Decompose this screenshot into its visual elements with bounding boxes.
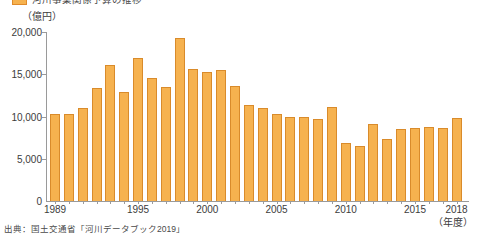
bar [50, 114, 60, 201]
bar [92, 88, 102, 201]
bar [147, 78, 157, 201]
bar [216, 70, 226, 201]
x-axis-tick-labels: 1989199520002005201020152018 [46, 204, 477, 218]
bar-series [47, 32, 469, 201]
y-axis-tick [42, 32, 47, 33]
bar [410, 128, 420, 202]
y-axis-tick-label: 10,000 [11, 111, 42, 122]
bar [452, 118, 462, 201]
bar [355, 146, 365, 201]
bar [327, 107, 337, 201]
bar [272, 114, 282, 201]
bar [64, 114, 74, 201]
bar [299, 117, 309, 201]
bar [105, 65, 115, 201]
bar [424, 127, 434, 201]
y-axis-tick-label: 5,000 [17, 153, 42, 164]
y-axis-tick-label: 0 [36, 196, 42, 207]
chart-root: 河川事業関係予算の推移 （億円） 05,00010,00015,00020,00… [0, 0, 477, 237]
y-axis-tick [42, 159, 47, 160]
bar [119, 92, 129, 201]
bar [175, 38, 185, 201]
bar [133, 58, 143, 201]
x-axis-tick-label: 2005 [265, 204, 287, 215]
bar [396, 129, 406, 201]
x-axis-tick-label: 1989 [44, 204, 66, 215]
bar [230, 86, 240, 201]
y-axis-tick-label: 20,000 [11, 27, 42, 38]
source-note: 出典：国土交通省「河川データブック2019」 [4, 222, 185, 234]
y-axis-tick-label: 15,000 [11, 69, 42, 80]
bar [341, 143, 351, 201]
bar [258, 108, 268, 201]
bar [188, 69, 198, 201]
chart-legend: 河川事業関係予算の推移 [12, 0, 142, 6]
y-axis-tick [42, 117, 47, 118]
bar [244, 105, 254, 201]
bar [202, 72, 212, 201]
x-axis-unit-label: （年度） [433, 214, 473, 229]
y-axis-tick-labels: 05,00010,00015,00020,000 [0, 32, 42, 202]
legend-swatch-icon [12, 0, 27, 5]
bar [368, 124, 378, 201]
y-axis-unit-label: （億円） [22, 8, 62, 23]
x-axis-tick-label: 2000 [196, 204, 218, 215]
bar [438, 128, 448, 201]
x-axis-tick-label: 1995 [127, 204, 149, 215]
bar [382, 139, 392, 201]
bar [161, 87, 171, 201]
y-axis-tick [42, 74, 47, 75]
bar [78, 108, 88, 201]
legend-label: 河川事業関係予算の推移 [32, 0, 142, 5]
bar [285, 117, 295, 202]
x-axis-tick-label: 2015 [404, 204, 426, 215]
bar [313, 119, 323, 201]
x-axis-tick-label: 2010 [335, 204, 357, 215]
plot-area [46, 32, 469, 202]
